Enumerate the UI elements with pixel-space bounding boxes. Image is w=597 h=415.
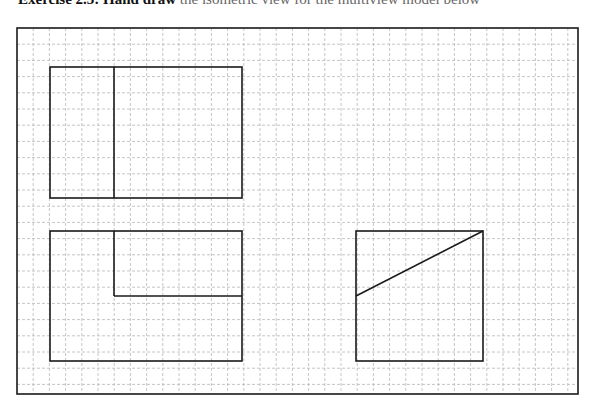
view-outline xyxy=(356,231,483,361)
visible-edge-line xyxy=(356,231,483,296)
drawing-sheet xyxy=(0,0,597,415)
side-view xyxy=(356,231,483,361)
view-outline xyxy=(50,67,242,198)
multiview-drawing xyxy=(50,67,483,361)
sheet-frame xyxy=(17,28,578,394)
grid-lines xyxy=(17,28,578,394)
top-view xyxy=(50,67,242,198)
front-view xyxy=(50,231,242,361)
